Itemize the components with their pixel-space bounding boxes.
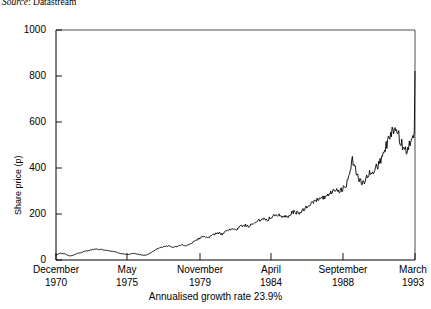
x-axis-ticks [56, 253, 415, 260]
chart-plot-area [0, 0, 431, 309]
chart-caption: Annualised growth rate 23.9% [0, 291, 431, 302]
x-tick-group-march-1993: March 1993 [368, 264, 431, 289]
x-tick-month-march: March [368, 264, 431, 277]
y-axis-ticks [56, 30, 62, 260]
share-price-line [56, 71, 415, 255]
plot-frame [56, 30, 415, 260]
x-tick-year-1993: 1993 [368, 277, 431, 290]
share-price-figure: Source: Datastream Share price (p) 1000 … [0, 0, 431, 309]
